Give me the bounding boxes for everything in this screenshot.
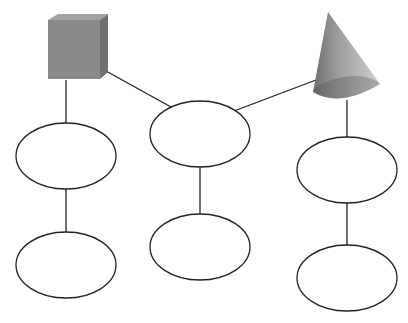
node-center-top[interactable]	[150, 101, 250, 167]
ellipse-nodes	[16, 101, 397, 311]
node-center-bottom[interactable]	[150, 214, 250, 280]
edge-cube-center-top	[106, 71, 171, 107]
node-right-bottom[interactable]	[297, 245, 397, 311]
diagram-canvas	[0, 0, 408, 323]
cube-shape	[48, 14, 108, 79]
node-left-top[interactable]	[16, 123, 116, 189]
edge-cone-center-top	[234, 80, 316, 111]
node-left-bottom[interactable]	[16, 232, 116, 298]
node-right-top[interactable]	[297, 137, 397, 203]
cone-shape	[313, 12, 380, 98]
